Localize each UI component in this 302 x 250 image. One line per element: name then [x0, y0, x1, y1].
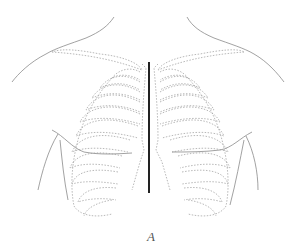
thorax-illustration — [0, 0, 302, 250]
left-ribs — [70, 69, 140, 216]
right-ribs — [160, 69, 230, 216]
figure-label: A — [0, 229, 302, 245]
sternum — [132, 64, 170, 190]
